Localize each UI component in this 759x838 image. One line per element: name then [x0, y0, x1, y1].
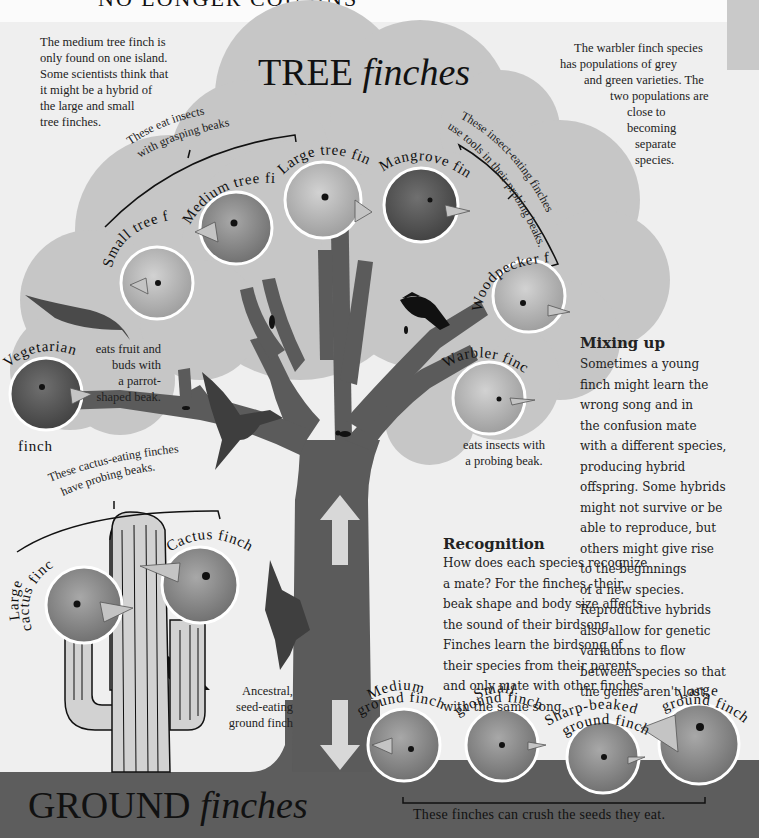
caption-line: Ancestral, [228, 683, 293, 699]
mangrove-finch-portrait [384, 168, 458, 242]
title-ground-italic: finches [200, 784, 308, 826]
body-line: with a different species, [580, 436, 726, 457]
note-line: separate species. [560, 136, 710, 168]
note-line: and green varieties. The [560, 72, 710, 88]
recognition-heading: Recognition [443, 535, 545, 553]
note-line: the large and small [40, 98, 168, 114]
body-line: might not survive or be [580, 498, 726, 519]
desc-line: shaped beak. [86, 389, 161, 405]
mixing-up-heading: Mixing up [580, 334, 665, 352]
body-line: others might give rise [580, 539, 726, 560]
note-line: only found on one island. [40, 50, 168, 66]
note-line: two populations are [560, 88, 710, 104]
body-line: of a new species. [580, 580, 726, 601]
tree-finches-title: TREE finches [258, 50, 470, 94]
body-line: between species so that [580, 662, 726, 683]
seed-crusher-caption: These finches can crush the seeds they e… [413, 807, 665, 823]
body-line: finch might learn the [580, 375, 726, 396]
caption-line: ground finch [228, 715, 293, 731]
note-line: The medium tree finch is [40, 34, 168, 50]
title-ground-bold: GROUND [28, 784, 191, 826]
body-line: producing hybrid [580, 457, 726, 478]
body-line: Reproductive hybrids [580, 600, 726, 621]
note-line: tree finches. [40, 114, 168, 130]
body-line: variations to flow [580, 641, 726, 662]
note-warbler-varieties: The warbler finch species has population… [560, 40, 710, 168]
mixing-up-body: Sometimes a young finch might learn the … [580, 354, 726, 703]
body-line: also allow for genetic [580, 621, 726, 642]
desc-line: eats insects with [450, 437, 558, 453]
body-line: to the beginnings [580, 559, 726, 580]
desc-line: a parrot- [86, 373, 161, 389]
body-line: offspring. Some hybrids [580, 477, 726, 498]
title-tree-bold: TREE [258, 51, 353, 93]
label-vegetarian-finch-bottom: finch [18, 438, 53, 454]
warbler-finch-description: eats insects with a probing beak. [450, 437, 558, 469]
body-line: Sometimes a young [580, 354, 726, 375]
body-line: the genes aren't lost. [580, 682, 726, 703]
ancestral-finch-caption: Ancestral, seed-eating ground finch [228, 683, 293, 731]
desc-line: buds with [86, 357, 161, 373]
note-line: The warbler finch species [560, 40, 710, 56]
large-tree-finch-portrait [285, 162, 361, 238]
body-line: able to reproduce, but [580, 518, 726, 539]
body-line: wrong song and in [580, 395, 726, 416]
cactus-finch-portrait [162, 547, 238, 623]
note-medium-tree-finch: The medium tree finch is only found on o… [40, 34, 168, 130]
note-line: Some scientists think that [40, 66, 168, 82]
title-tree-italic: finches [362, 51, 470, 93]
note-line: close to becoming [560, 104, 710, 136]
body-line: the confusion mate [580, 416, 726, 437]
caption-line: seed-eating [228, 699, 293, 715]
desc-line: eats fruit and [86, 341, 161, 357]
note-line: has populations of grey [560, 56, 710, 72]
ground-finches-title: GROUND finches [28, 783, 308, 827]
desc-line: a probing beak. [450, 453, 558, 469]
vegetarian-finch-description: eats fruit and buds with a parrot- shape… [86, 341, 161, 405]
note-line: it might be a hybrid of [40, 82, 168, 98]
